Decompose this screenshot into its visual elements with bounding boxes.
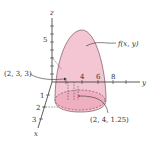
y-tick-6: 6: [96, 73, 101, 81]
point-label-2-3-3: (2, 3, 3): [4, 70, 32, 78]
x-tick-2: 2: [36, 104, 40, 112]
x-tick-1: 1: [40, 92, 44, 100]
y-tick-4: 4: [80, 73, 85, 81]
y-axis-label: y: [141, 79, 147, 87]
surface-diagram: z 5 4 6 8 y 1 2 3 x (2, 3, 3) (2, 4, 1.2…: [0, 0, 160, 145]
surface-label: f(x, y): [117, 40, 139, 48]
point-label-2-4-1.25: (2, 4, 1.25): [90, 116, 129, 124]
z-axis-label: z: [49, 9, 54, 17]
x-tick-3: 3: [32, 116, 36, 124]
base-ellipse: [55, 90, 105, 110]
x-axis-label: x: [34, 130, 38, 138]
y-tick-8: 8: [111, 73, 115, 81]
z-tick-5: 5: [43, 36, 47, 44]
